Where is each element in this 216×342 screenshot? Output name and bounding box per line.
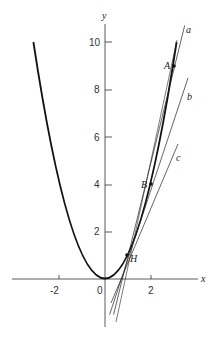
y-axis-label: y [101,10,107,21]
x-tick-neg2: -2 [50,285,59,296]
line-b-label: b [187,91,192,102]
x-tick-2: 2 [148,285,154,296]
line-c-label: c [176,152,181,163]
point-H-label: H [129,253,138,264]
y-tick-8: 8 [94,84,100,95]
y-tick-4: 4 [94,179,100,190]
y-tick-6: 6 [94,132,100,143]
x-tick-0: 0 [97,285,103,296]
y-tick-10: 10 [89,37,101,48]
line-a-label: a [186,24,191,35]
parabola-diagram: y x -2 0 2 2 4 6 8 10 A B H a b c [0,0,216,342]
point-H [125,253,129,257]
point-B-label: B [141,179,147,190]
point-A-label: A [163,60,171,71]
x-axis-label: x [200,273,206,284]
point-A [172,64,176,68]
point-B [149,182,153,186]
y-tick-2: 2 [94,226,100,237]
